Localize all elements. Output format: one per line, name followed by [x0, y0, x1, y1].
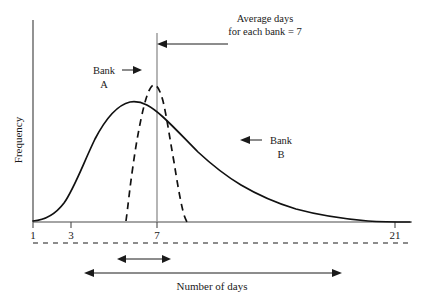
mean-annotation-line2: for each bank = 7 [228, 26, 302, 37]
bank-a-label-line1: Bank [93, 65, 116, 76]
frequency-distribution-chart: 1 3 7 21 Frequency Average days for each… [0, 0, 423, 302]
bank-b-curve [33, 102, 410, 222]
bank-b-range-arrow-left [84, 269, 94, 277]
bank-a-label-line2: A [100, 79, 108, 90]
x-tick-label-3: 3 [68, 229, 74, 241]
mean-annotation-line1: Average days [237, 13, 294, 24]
bank-b-arrow-head [240, 136, 250, 144]
chart-svg: 1 3 7 21 Frequency Average days for each… [0, 0, 423, 302]
bank-a-arrow-head [133, 66, 142, 74]
bank-a-range-arrow-left [117, 255, 126, 263]
mean-annotation-arrow-head [157, 40, 167, 48]
bank-a-range-arrow-right [162, 255, 171, 263]
bank-b-label-line1: Bank [270, 135, 293, 146]
bank-b-range-arrow-right [332, 269, 342, 277]
x-axis-caption: Number of days [177, 280, 248, 292]
bank-b-label-line2: B [277, 149, 284, 160]
x-tick-label-1: 1 [30, 229, 36, 241]
x-tick-label-21: 21 [390, 229, 401, 241]
x-tick-label-7: 7 [154, 229, 160, 241]
y-axis-label: Frequency [12, 116, 24, 163]
